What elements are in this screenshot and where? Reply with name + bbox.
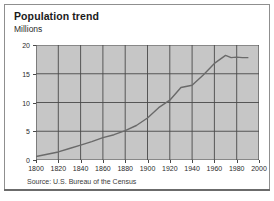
- chart-figure: Population trend Millions 05101520 18001…: [0, 0, 274, 201]
- x-axis-tick-label: 2000: [251, 165, 267, 172]
- chart-subtitle-units: Millions: [14, 24, 42, 34]
- x-axis-tick-mark: [259, 160, 260, 163]
- source-note: Source: U.S. Bureau of the Census: [27, 178, 136, 185]
- figure-border-top: [4, 4, 270, 5]
- x-axis-tick-mark: [237, 160, 238, 163]
- y-axis-tick-mark: [33, 103, 36, 104]
- y-axis-tick-label: 5: [8, 128, 30, 135]
- x-axis-tick-label: 1840: [73, 165, 89, 172]
- x-axis-tick-label: 1920: [162, 165, 178, 172]
- data-line-population: [36, 55, 248, 156]
- x-axis-tick-label: 1800: [28, 165, 44, 172]
- y-axis-tick-mark: [33, 45, 36, 46]
- x-axis-tick-label: 1980: [229, 165, 245, 172]
- figure-border-bottom: [4, 189, 270, 191]
- y-axis-tick-mark: [33, 131, 36, 132]
- figure-border-right: [269, 4, 270, 190]
- y-axis-tick-label: 0: [8, 157, 30, 164]
- x-axis-tick-mark: [103, 160, 104, 163]
- x-axis-tick-label: 1900: [140, 165, 156, 172]
- y-axis-tick-label: 15: [8, 70, 30, 77]
- x-axis-tick-mark: [81, 160, 82, 163]
- chart-plot-svg: [36, 45, 259, 160]
- x-axis-tick-label: 1940: [184, 165, 200, 172]
- x-axis-tick-label: 1860: [95, 165, 111, 172]
- x-axis-tick-label: 1960: [207, 165, 223, 172]
- x-axis-tick-mark: [170, 160, 171, 163]
- x-axis-tick-label: 1820: [51, 165, 67, 172]
- y-axis-tick-mark: [33, 74, 36, 75]
- x-axis-tick-mark: [36, 160, 37, 163]
- x-axis-tick-mark: [192, 160, 193, 163]
- plot-area: [36, 45, 259, 160]
- y-axis-tick-label: 10: [8, 99, 30, 106]
- y-axis-tick-label: 20: [8, 42, 30, 49]
- figure-border-left: [4, 4, 5, 190]
- x-axis-tick-mark: [148, 160, 149, 163]
- x-axis-tick-mark: [214, 160, 215, 163]
- x-axis-tick-label: 1880: [117, 165, 133, 172]
- x-axis-tick-mark: [125, 160, 126, 163]
- chart-title: Population trend: [14, 10, 99, 22]
- x-axis-tick-mark: [58, 160, 59, 163]
